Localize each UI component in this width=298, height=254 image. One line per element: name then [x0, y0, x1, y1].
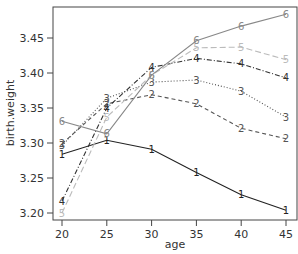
y-tick-label: 3.40: [20, 67, 45, 80]
series-point-label-1: 1: [238, 189, 244, 200]
series-point-label-5: 5: [238, 42, 244, 53]
series-point-label-4: 4: [59, 196, 65, 207]
y-axis-title: birth.weight: [4, 79, 17, 146]
series-point-label-2: 2: [193, 98, 199, 109]
x-tick-label: 40: [234, 228, 248, 241]
series-line-1: [62, 140, 286, 210]
series-point-label-5: 5: [104, 112, 110, 123]
series-point-label-1: 1: [283, 205, 289, 216]
x-tick-label: 35: [189, 228, 203, 241]
series-point-label-6: 6: [104, 128, 110, 139]
series-line-3: [62, 80, 286, 146]
series-point-label-2: 2: [238, 123, 244, 134]
y-tick-label: 3.35: [20, 102, 45, 115]
series-point-label-4: 4: [238, 58, 244, 69]
series-point-label-2: 2: [148, 89, 154, 100]
series-line-4: [62, 58, 286, 201]
series-lines: [62, 14, 286, 213]
series-point-label-6: 6: [148, 70, 154, 81]
series-point-label-4: 4: [283, 72, 289, 83]
y-tick-label: 3.30: [20, 137, 45, 150]
series-point-label-4: 4: [193, 53, 199, 64]
y-tick-label: 3.25: [20, 172, 45, 185]
y-tick-label: 3.45: [20, 32, 45, 45]
series-point-label-6: 6: [238, 21, 244, 32]
line-chart: 3.203.253.303.353.403.45 202530354045 11…: [0, 0, 298, 254]
y-tick-label: 3.20: [20, 207, 45, 220]
series-point-label-6: 6: [59, 116, 65, 127]
series-line-5: [62, 47, 286, 213]
x-tick-label: 30: [145, 228, 159, 241]
series-point-label-1: 1: [148, 144, 154, 155]
x-tick-label: 25: [100, 228, 114, 241]
series-point-labels: 111111222222333333444444555555666666: [59, 9, 289, 219]
series-point-label-6: 6: [193, 35, 199, 46]
plot-frame: [53, 7, 297, 220]
series-point-label-5: 5: [283, 54, 289, 65]
x-axis-title: age: [165, 238, 186, 251]
series-point-label-3: 3: [238, 86, 244, 97]
x-tick-label: 45: [279, 228, 293, 241]
series-line-6: [62, 14, 286, 134]
y-axis: 3.203.253.303.353.403.45: [20, 32, 54, 220]
series-point-label-6: 6: [283, 9, 289, 20]
series-point-label-1: 1: [193, 167, 199, 178]
series-point-label-3: 3: [193, 75, 199, 86]
series-point-label-3: 3: [283, 112, 289, 123]
series-point-label-2: 2: [283, 133, 289, 144]
series-line-2: [62, 95, 286, 144]
series-point-label-5: 5: [59, 208, 65, 219]
series-point-label-3: 3: [59, 140, 65, 151]
x-tick-label: 20: [55, 228, 69, 241]
